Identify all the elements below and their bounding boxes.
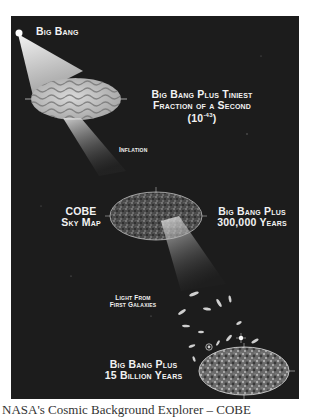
label-inflation: Inflation xyxy=(119,147,148,154)
label-300000-line2: 300,000 Years xyxy=(207,217,297,228)
label-light-from-first-galaxies: Light From First Galaxies xyxy=(103,295,163,309)
label-cobe-sky-map: COBE Sky Map xyxy=(53,206,109,228)
cobe-sky-map-ellipse xyxy=(105,187,207,240)
label-light-line2: First Galaxies xyxy=(103,302,163,309)
label-tiniest-fraction: Big Bang Plus Tiniest Fraction of a Seco… xyxy=(132,89,272,124)
label-300000-years: Big Bang Plus 300,000 Years xyxy=(207,206,297,228)
label-cobe-line2: Sky Map xyxy=(53,217,109,228)
big-bang-timeline-diagram: Big Bang Big Bang Plus Tiniest Fraction … xyxy=(11,16,299,399)
label-15-billion-years: Big Bang Plus 15 Billion Years xyxy=(91,359,196,381)
fraction-base: (10 xyxy=(188,112,204,124)
figure-caption: NASA's Cosmic Background Explorer – COBE xyxy=(2,402,251,418)
label-tiniest-fraction-value: (10-43) xyxy=(132,112,272,124)
label-big-bang: Big Bang xyxy=(36,26,79,37)
inflation-beam xyxy=(63,118,126,176)
fraction-exponent: -43 xyxy=(203,112,212,118)
fraction-close: ) xyxy=(213,112,217,124)
present-universe-ellipse xyxy=(199,343,295,399)
label-billion-line2: 15 Billion Years xyxy=(91,370,196,381)
label-tiniest-fraction-line2: Fraction of a Second xyxy=(132,100,272,111)
big-bang-point xyxy=(16,30,23,37)
